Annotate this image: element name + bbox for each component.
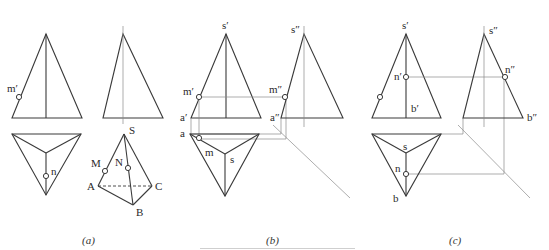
label-s-prime: s′ [402,19,409,31]
label-s: s [230,153,234,165]
panel-b: s′ m′ a′ s″ m″ a″ [180,19,350,247]
point-n-double-prime [502,74,507,79]
figure-caption-truncated [200,246,355,250]
panel-a: m′ n S A B C M [7,26,163,247]
label-S: S [129,124,135,136]
point-M [102,168,107,173]
label-n-prime: n′ [394,70,402,82]
caption-a: (a) [82,234,95,247]
point-m-prime [377,94,382,99]
three-view-pyramid-diagram: m′ n S A B C M [0,0,549,250]
label-C: C [155,180,162,192]
panel-a-top-view: n [12,134,81,195]
label-N: N [115,156,123,168]
panel-b-side-view: s″ m″ a″ [269,23,343,127]
label-n-double-prime: n″ [505,63,515,75]
label-s-double-prime: s″ [291,23,300,35]
label-a: a [180,127,185,139]
point-n-prime [403,74,408,79]
label-s-prime: s′ [222,19,229,31]
point-m [196,135,201,140]
label-n: n [395,162,401,174]
panel-c: s′ n′ b′ s″ n″ b″ [372,19,537,247]
panel-c-side-view: s″ n″ b″ [463,24,537,127]
point-n [403,171,408,176]
label-m-prime: m′ [7,82,18,94]
label-m-double-prime: m″ [269,83,282,95]
label-m: m [205,146,214,158]
label-M: M [91,157,101,169]
panel-b-front-view: s′ m′ a′ [180,19,261,123]
panel-a-pictorial: S A B C M N [87,124,162,218]
label-b: b [393,192,399,204]
point-m-double-prime [282,94,287,99]
label-a-prime: a′ [180,111,187,123]
point-m-prime [196,94,201,99]
panel-c-front-view: s′ n′ b′ [372,19,441,118]
label-s-double-prime: s″ [489,24,498,36]
label-b-prime: b′ [411,102,419,114]
label-a-double-prime: a″ [270,111,279,123]
caption-c: (c) [449,234,462,247]
panel-a-front-view: m′ [7,34,82,118]
point-N [125,165,130,170]
label-b-double-prime: b″ [527,111,537,123]
label-A: A [87,180,95,192]
label-m-prime: m′ [183,85,194,97]
point-n [43,173,48,178]
panel-b-top-view: a m s [180,94,259,196]
point-m-prime [16,94,21,99]
label-s: s [403,140,407,152]
label-n: n [51,165,57,177]
panel-c-construction-lines [406,77,530,198]
label-B: B [136,206,143,218]
panel-a-side-view [103,26,163,124]
